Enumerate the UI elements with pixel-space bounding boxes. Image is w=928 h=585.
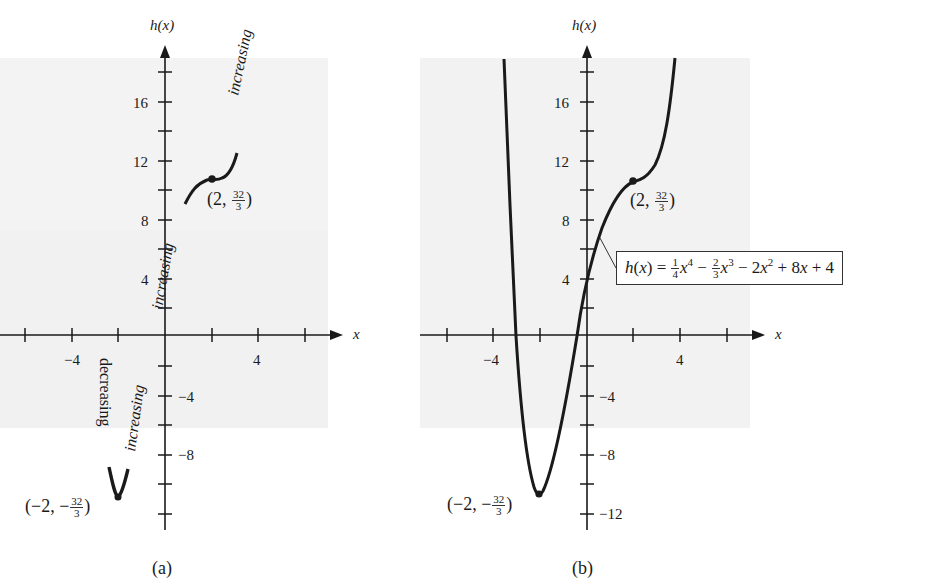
y-tick-label: −8 <box>178 447 194 463</box>
local-max-dot <box>629 177 637 185</box>
local-max-label: (2, 323) <box>207 189 252 212</box>
y-tick-label: 16 <box>554 95 570 111</box>
y-tick-label: −4 <box>178 389 194 405</box>
x-axis-arrow-icon <box>752 330 765 340</box>
y-tick-label: 8 <box>141 213 149 229</box>
caption-b: (b) <box>572 558 593 579</box>
x-axis-label: x <box>352 326 360 342</box>
y-axis-label: h(x) <box>150 17 174 34</box>
y-tick-label: 12 <box>554 154 569 170</box>
x-tick-label: −4 <box>64 352 80 368</box>
x-axis-label: x <box>774 326 782 342</box>
local-min-label: (−2, −323) <box>447 494 512 517</box>
x-tick-label: −4 <box>483 352 499 368</box>
local-min-dot <box>115 494 122 501</box>
local-min-dot <box>535 490 542 497</box>
local-max-label: (2, 323) <box>630 190 675 213</box>
y-tick-label: −12 <box>599 506 622 522</box>
curve-fragment-lower <box>109 467 128 497</box>
y-axis-arrow-icon <box>582 45 592 58</box>
plot-background <box>420 58 750 428</box>
y-tick-label: 12 <box>133 154 148 170</box>
x-tick-label: 4 <box>253 352 261 368</box>
y-tick-label: 8 <box>562 213 570 229</box>
panel-b: −4 4 16 12 8 4 −4 −8 −12 h(x) x (2, 323)… <box>420 0 928 585</box>
plot-background <box>0 58 328 230</box>
y-tick-label: 16 <box>133 95 149 111</box>
label-decreasing: decreasing <box>96 358 114 426</box>
equation-box: h(x) = 14x4 − 23x3 − 2x2 + 8x + 4 <box>616 251 843 285</box>
y-tick-label: −4 <box>599 389 615 405</box>
local-max-dot <box>208 175 216 183</box>
y-axis-label: h(x) <box>572 17 596 34</box>
y-tick-label: 4 <box>141 272 149 288</box>
x-axis-arrow-icon <box>330 330 343 340</box>
y-tick-label: 4 <box>562 272 570 288</box>
x-tick-label: 4 <box>676 352 684 368</box>
panel-a: −4 4 16 12 8 4 −4 −8 h(x) x increasing i… <box>0 0 420 585</box>
local-min-label: (−2, −323) <box>25 496 90 519</box>
y-axis-arrow-icon <box>160 45 170 58</box>
caption-a: (a) <box>152 558 172 579</box>
y-tick-label: −8 <box>599 447 615 463</box>
